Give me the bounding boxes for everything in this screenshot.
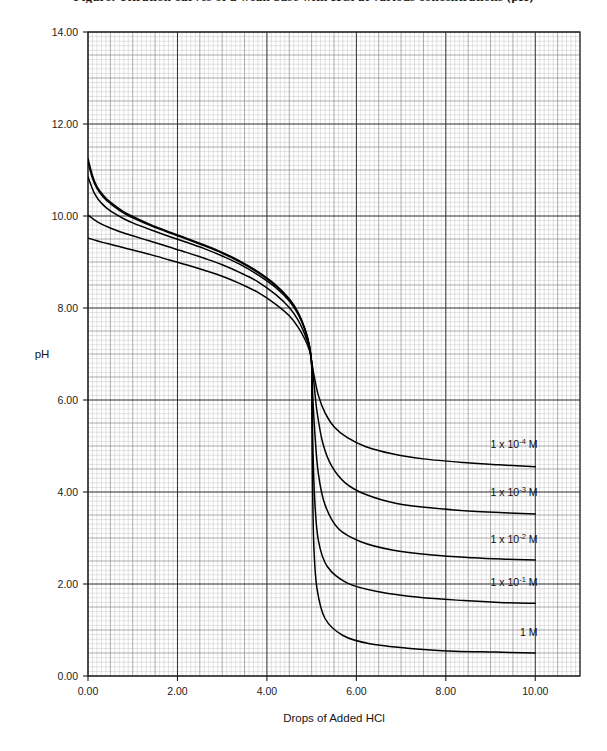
x-tick-label: 6.00 (346, 685, 367, 697)
x-tick-label: 10.00 (522, 685, 548, 697)
y-tick-label: 0.00 (58, 670, 79, 682)
y-axis-title: pH (35, 348, 50, 360)
y-tick-label: 4.00 (58, 486, 79, 498)
x-axis-title: Drops of Added HCl (283, 712, 385, 724)
series-label: 1 x 10-2 M (491, 532, 538, 545)
y-tick-label: 6.00 (58, 394, 79, 406)
series-label: 1 M (520, 626, 538, 638)
chart-canvas: 0.002.004.006.008.0010.00 0.002.004.006.… (0, 0, 607, 751)
x-tick-label: 2.00 (167, 685, 188, 697)
x-axis-tick-labels: 0.002.004.006.008.0010.00 (78, 685, 549, 697)
y-tick-label: 10.00 (52, 210, 78, 222)
y-tick-label: 14.00 (52, 26, 78, 38)
series-label: 1 x 10-3 M (491, 485, 538, 498)
series-label: 1 x 10-4 M (491, 437, 538, 450)
series-label: 1 x 10-1 M (491, 575, 538, 588)
y-tick-label: 2.00 (58, 578, 79, 590)
y-tick-label: 8.00 (58, 302, 79, 314)
series-labels: 1 x 10-4 M1 x 10-3 M1 x 10-2 M1 x 10-1 M… (491, 437, 538, 637)
x-tick-label: 4.00 (257, 685, 278, 697)
y-axis-tick-labels: 0.002.004.006.008.0010.0012.0014.00 (52, 26, 78, 682)
titration-chart: 0.002.004.006.008.0010.00 0.002.004.006.… (0, 0, 607, 751)
y-tick-label: 12.00 (52, 118, 78, 130)
x-tick-label: 8.00 (436, 685, 457, 697)
x-tick-label: 0.00 (78, 685, 99, 697)
figure-page: Figure: Titration curves of a weak base … (0, 0, 607, 751)
